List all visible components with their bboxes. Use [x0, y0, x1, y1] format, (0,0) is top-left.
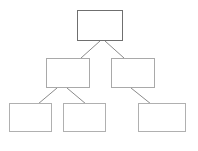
root-to-branch-left-connector	[81, 41, 100, 58]
node-branch-right-label	[112, 59, 154, 87]
node-branch-right[interactable]	[111, 58, 155, 88]
node-branch-left[interactable]	[46, 58, 90, 88]
node-root[interactable]	[77, 10, 123, 41]
node-leaf-one[interactable]	[9, 103, 52, 132]
node-root-label	[78, 11, 122, 40]
branch-right-to-leaf-three-connector	[131, 88, 151, 104]
node-leaf-three[interactable]	[138, 103, 186, 132]
branch-left-to-leaf-two-connector	[67, 88, 86, 104]
node-leaf-one-label	[10, 104, 51, 131]
diagram-canvas	[0, 0, 198, 151]
branch-left-to-leaf-one-connector	[38, 88, 57, 104]
node-leaf-two[interactable]	[63, 103, 106, 132]
node-leaf-two-label	[64, 104, 105, 131]
node-branch-left-label	[47, 59, 89, 87]
root-to-branch-right-connector	[105, 41, 124, 58]
node-leaf-three-label	[139, 104, 185, 131]
